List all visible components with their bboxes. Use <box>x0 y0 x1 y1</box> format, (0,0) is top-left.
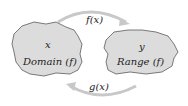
domain-variable: x <box>45 40 51 50</box>
range-variable: y <box>139 42 145 52</box>
domain-label: Domain (f) <box>23 57 77 67</box>
range-set-blob <box>104 30 178 74</box>
range-label: Range (f) <box>117 57 164 67</box>
inverse-arrow-label: g(x) <box>89 82 109 92</box>
forward-arrow-label: f(x) <box>86 15 103 25</box>
